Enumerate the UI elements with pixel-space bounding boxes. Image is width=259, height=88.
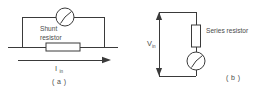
current-symbol: I: [55, 64, 57, 73]
series-resistor-label: Series resistor: [206, 27, 249, 34]
series-resistor-body: [192, 25, 201, 47]
panel-a-caption: ( a ): [52, 78, 66, 86]
voltage-arrow-down-icon: [156, 68, 162, 76]
shunt-resistor-label-line2: resistor: [40, 34, 62, 41]
voltage-subscript: in: [152, 44, 156, 49]
current-label-a: I in: [55, 64, 64, 74]
voltage-label-b: V in: [147, 39, 156, 49]
voltage-arrow-up-icon: [156, 12, 162, 20]
panel-b-caption: ( b ): [226, 74, 240, 82]
panel-b: V in Series resistor ( b ): [147, 12, 249, 82]
meter-symbol-a: [56, 8, 74, 26]
circuit-diagram-figure: Shunt resistor I in ( a ): [0, 0, 259, 88]
current-arrow-a: [18, 57, 111, 63]
current-arrow-head-icon: [102, 57, 111, 63]
current-subscript: in: [60, 69, 64, 74]
panel-a-main-line: [8, 43, 118, 51]
shunt-resistor-label-line1: Shunt: [40, 25, 57, 32]
figure-container: Shunt resistor I in ( a ): [0, 0, 259, 88]
meter-symbol-b: [187, 52, 205, 70]
panel-a: Shunt resistor I in ( a ): [8, 8, 118, 86]
shunt-resistor-body: [46, 43, 80, 51]
